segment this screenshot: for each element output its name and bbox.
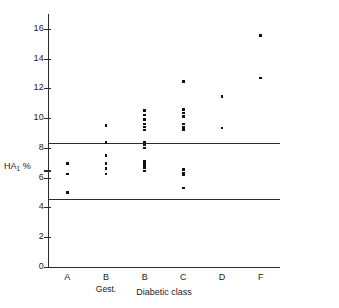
y-tick-label: 14 (34, 54, 44, 63)
y-tick-mark-extra (44, 170, 51, 172)
y-tick-mark (44, 59, 51, 60)
data-point (143, 147, 146, 150)
data-point (221, 95, 224, 98)
y-tick-mark (44, 148, 51, 149)
y-tick-label: 10 (34, 113, 44, 122)
data-point (143, 109, 146, 112)
x-tick-sublabel: Gest. (96, 284, 116, 294)
data-point (143, 166, 146, 169)
y-tick-mark (44, 237, 51, 238)
x-tick-label: D (219, 272, 226, 282)
y-tick-label: 16 (34, 24, 44, 33)
data-point (105, 124, 108, 127)
x-axis-line (48, 267, 280, 268)
data-point (105, 154, 108, 157)
data-point (143, 114, 146, 117)
x-tick-label: B (142, 272, 148, 282)
data-point (66, 191, 69, 194)
y-tick-mark (44, 118, 51, 119)
data-point (221, 127, 224, 130)
x-tick-label: F (258, 272, 264, 282)
y-axis-line (48, 14, 49, 268)
x-tick-label: B (103, 272, 109, 282)
data-point (182, 115, 185, 118)
data-point (143, 170, 146, 173)
data-point (182, 128, 185, 131)
data-point (143, 129, 146, 132)
data-point (105, 162, 108, 165)
upper-normal-limit (48, 143, 280, 144)
data-point (143, 118, 146, 121)
scatter-chart: HA1 % 0246810121416 ABGest.BCDF Diabetic… (0, 0, 339, 308)
y-tick-mark (44, 267, 51, 268)
data-point (259, 34, 262, 37)
data-point (105, 173, 108, 176)
data-point (182, 168, 185, 171)
data-point (182, 187, 185, 190)
data-point (182, 112, 185, 115)
y-tick-labels: 0246810121416 (24, 0, 44, 308)
data-point (259, 77, 262, 80)
y-axis-title-subscript: 1 (17, 165, 21, 172)
data-point (105, 141, 108, 144)
data-point (182, 173, 185, 176)
x-tick-label: C (180, 272, 187, 282)
data-point (182, 80, 185, 83)
data-point (105, 167, 108, 170)
x-axis-title: Diabetic class (136, 287, 192, 297)
data-point (182, 108, 185, 111)
x-tick-label: A (64, 272, 70, 282)
y-axis-title-base: HA (4, 161, 17, 171)
data-point (66, 162, 69, 165)
lower-normal-limit (48, 199, 280, 200)
y-tick-label: 12 (34, 83, 44, 92)
y-tick-mark (44, 207, 51, 208)
y-tick-mark (44, 178, 51, 179)
y-tick-mark (44, 88, 51, 89)
y-tick-mark (44, 29, 51, 30)
data-point (66, 173, 69, 176)
